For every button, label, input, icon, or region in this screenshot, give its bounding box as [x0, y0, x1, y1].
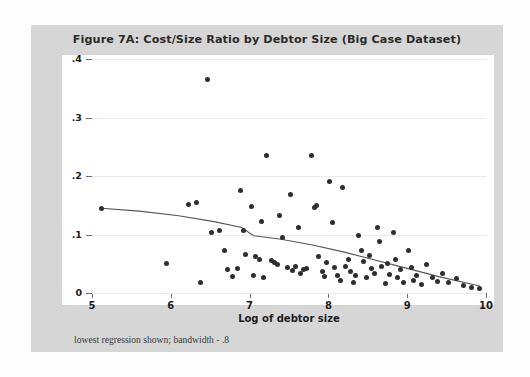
data-point — [477, 286, 482, 291]
x-tick-label: 8 — [316, 300, 340, 311]
data-point — [194, 200, 199, 205]
y-tick-label: 0 — [56, 287, 82, 298]
scatter-plot — [92, 59, 486, 293]
data-point — [411, 278, 416, 283]
lowess-regression-line — [92, 59, 486, 293]
data-point — [409, 265, 414, 270]
data-point — [440, 271, 445, 276]
data-point — [375, 225, 380, 230]
data-point — [309, 153, 314, 158]
figure-note: lowest regression shown; bandwidth - .8 — [74, 334, 229, 345]
x-tick-label: 5 — [80, 300, 104, 311]
data-point — [367, 253, 372, 258]
y-tick-label: .3 — [56, 112, 82, 123]
data-point — [304, 266, 309, 271]
page-title: Figure 7A: Cost/Size Ratio by Debtor Siz… — [31, 33, 503, 46]
data-point — [99, 206, 104, 211]
y-tick-label: .4 — [56, 53, 82, 64]
x-tick-label: 9 — [395, 300, 419, 311]
x-tick-label: 10 — [474, 300, 498, 311]
data-point — [346, 257, 351, 262]
x-axis-label: Log of debtor size — [92, 313, 486, 324]
data-point — [372, 271, 377, 276]
data-point — [230, 274, 235, 279]
data-point — [332, 265, 337, 270]
gridline — [92, 293, 486, 294]
x-tick — [486, 293, 487, 298]
data-point — [209, 230, 214, 235]
data-point — [435, 279, 440, 284]
data-point — [285, 265, 290, 270]
y-tick-label: .2 — [56, 170, 82, 181]
data-point — [446, 280, 451, 285]
data-point — [356, 233, 361, 238]
data-point — [257, 257, 262, 262]
data-point — [393, 257, 398, 262]
data-point — [391, 230, 396, 235]
data-point — [338, 278, 343, 283]
data-point — [383, 281, 388, 286]
y-tick-label: .1 — [56, 229, 82, 240]
data-point — [251, 273, 256, 278]
data-point — [293, 264, 298, 269]
data-point — [296, 225, 301, 230]
data-point — [469, 285, 474, 290]
data-point — [238, 188, 243, 193]
figure-screenshot: Figure 7A: Cost/Size Ratio by Debtor Siz… — [0, 0, 530, 377]
data-point — [343, 264, 348, 269]
x-tick-label: 7 — [238, 300, 262, 311]
x-tick-label: 6 — [159, 300, 183, 311]
data-point — [314, 203, 319, 208]
data-point — [249, 204, 254, 209]
data-point — [401, 280, 406, 285]
